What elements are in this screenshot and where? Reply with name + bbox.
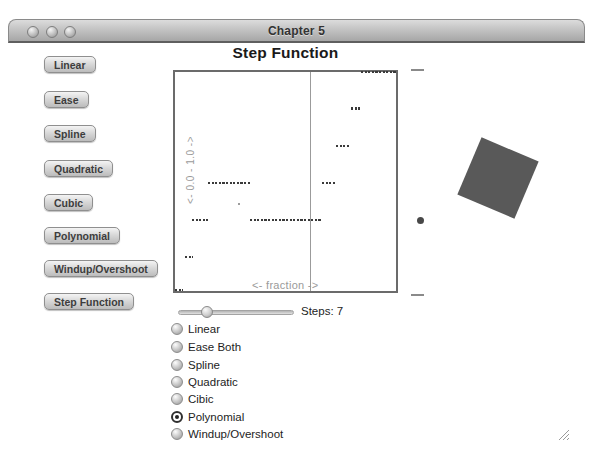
radio-quadratic[interactable]: Quadratic	[171, 375, 238, 389]
y-axis-label: <- 0.0 - 1.0 ->	[185, 136, 196, 204]
track-tick-bottom	[411, 294, 424, 296]
windup-overshoot-button[interactable]: Windup/Overshoot	[44, 260, 158, 277]
step-dot-run	[336, 145, 350, 147]
step-dot-run	[361, 71, 396, 73]
steps-value-label: Steps: 7	[301, 305, 343, 317]
radio-windup-overshoot[interactable]: Windup/Overshoot	[171, 427, 283, 441]
radio-linear[interactable]: Linear	[171, 322, 220, 336]
radio-ease-both[interactable]: Ease Both	[171, 340, 241, 354]
resize-grip-icon[interactable]	[556, 427, 572, 443]
spline-button[interactable]: Spline	[44, 125, 96, 142]
window-title: Chapter 5	[9, 24, 584, 38]
step-dot-run	[351, 107, 360, 109]
x-axis-label: <- fraction ->	[252, 279, 319, 291]
step-dot-run	[322, 182, 334, 184]
radio-icon[interactable]	[171, 323, 183, 335]
plot-area	[175, 72, 396, 291]
steps-slider-knob[interactable]	[201, 306, 213, 318]
radio-icon[interactable]	[171, 411, 183, 423]
stray-dot	[238, 203, 241, 206]
radio-spline[interactable]: Spline	[171, 358, 220, 372]
radio-icon[interactable]	[171, 359, 183, 371]
radio-icon[interactable]	[171, 393, 183, 405]
fraction-cursor-line	[310, 72, 311, 291]
quadratic-button[interactable]: Quadratic	[44, 160, 113, 177]
linear-button[interactable]: Linear	[44, 56, 96, 73]
track-tick-top	[411, 69, 424, 71]
ease-button[interactable]: Ease	[44, 91, 89, 108]
step-dot-run	[250, 219, 322, 221]
radio-icon[interactable]	[171, 376, 183, 388]
cubic-button[interactable]: Cubic	[44, 194, 93, 211]
step-function-button[interactable]: Step Function	[44, 293, 134, 310]
plot-frame	[173, 70, 398, 293]
step-dot-run	[175, 289, 183, 291]
step-dot-run	[192, 219, 209, 221]
window-titlebar[interactable]: Chapter 5	[8, 19, 585, 43]
radio-icon[interactable]	[171, 428, 183, 440]
step-dot-run	[208, 182, 250, 184]
radio-cibic[interactable]: Cibic	[171, 392, 214, 406]
chart-title: Step Function	[173, 44, 398, 62]
steps-slider-track[interactable]	[178, 310, 294, 315]
animated-ball	[417, 217, 424, 224]
radio-polynomial[interactable]: Polynomial	[171, 410, 244, 424]
step-dot-run	[185, 256, 193, 258]
polynomial-button[interactable]: Polynomial	[44, 227, 120, 244]
radio-icon[interactable]	[171, 341, 183, 353]
